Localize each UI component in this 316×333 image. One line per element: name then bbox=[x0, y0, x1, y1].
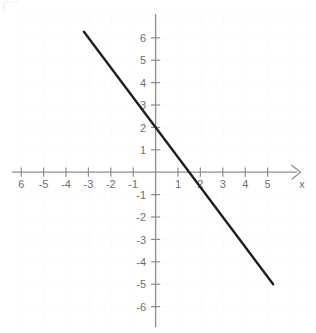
x-tick-label: 4 bbox=[242, 178, 248, 190]
y-tick-label: -3 bbox=[136, 234, 146, 246]
y-tick-label: -4 bbox=[136, 256, 146, 268]
x-tick-label: -2 bbox=[106, 178, 116, 190]
coordinate-plane-figure: 6 -5 -4 -3 -2 -1 1 2 3 4 5 6 5 4 3 2 1 -… bbox=[0, 0, 316, 333]
x-tick-label: -5 bbox=[39, 178, 49, 190]
x-tick-label: 3 bbox=[220, 178, 226, 190]
x-tick-label: 6 bbox=[18, 178, 24, 190]
y-tick-label: 2 bbox=[140, 122, 146, 134]
y-tick-label: 5 bbox=[140, 54, 146, 66]
y-tick-label: 4 bbox=[140, 77, 146, 89]
y-tick-label: 1 bbox=[140, 144, 146, 156]
y-tick-label: -6 bbox=[136, 301, 146, 313]
graph-canvas: 6 -5 -4 -3 -2 -1 1 2 3 4 5 6 5 4 3 2 1 -… bbox=[0, 0, 316, 333]
y-tick-label: -2 bbox=[136, 211, 146, 223]
grid bbox=[16, 15, 308, 323]
y-tick-label: -5 bbox=[136, 278, 146, 290]
x-axis-label: x bbox=[299, 178, 305, 190]
x-tick-label: 1 bbox=[175, 178, 181, 190]
y-tick-label: -1 bbox=[136, 189, 146, 201]
x-tick-label: -3 bbox=[84, 178, 94, 190]
x-tick-label: -4 bbox=[61, 178, 71, 190]
x-tick-label: 5 bbox=[265, 178, 271, 190]
y-tick-label: 6 bbox=[140, 32, 146, 44]
